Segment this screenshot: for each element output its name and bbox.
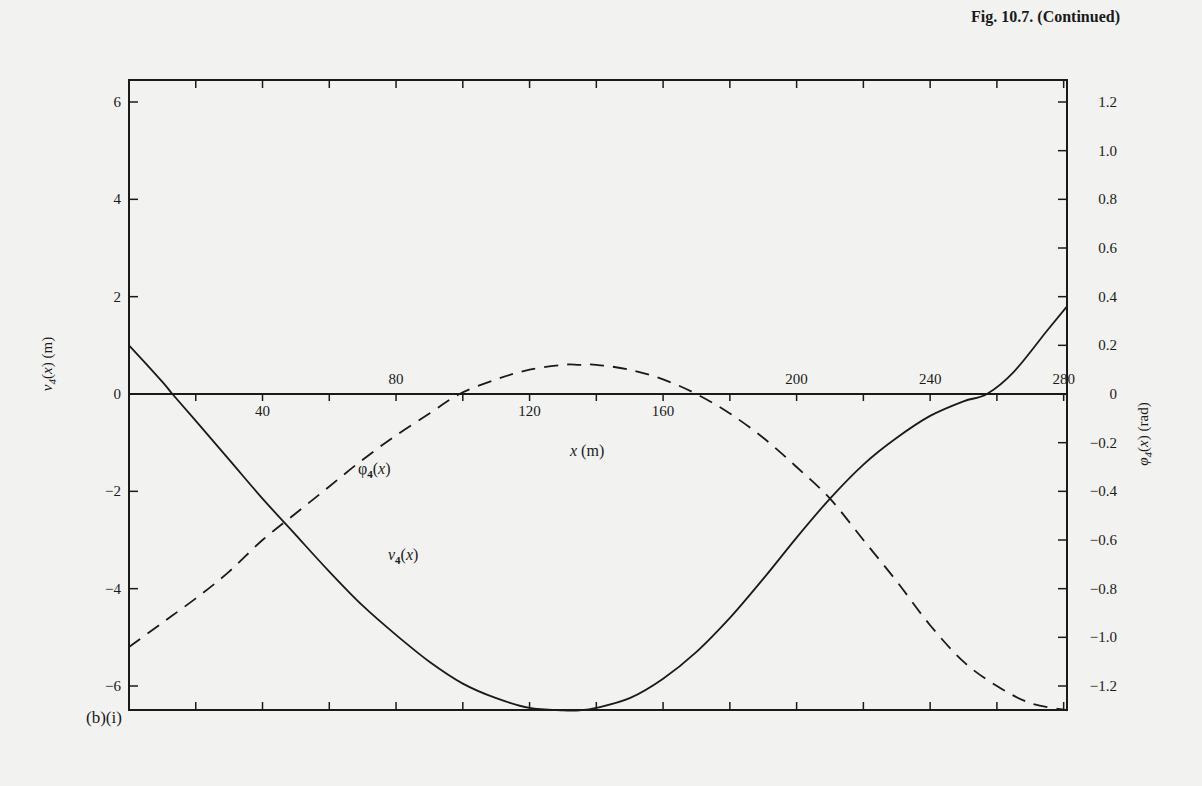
y2-tick-label: −1.0 xyxy=(1090,629,1117,645)
y2-tick-label: −0.8 xyxy=(1090,581,1117,597)
y2-tick-label: 1.2 xyxy=(1098,94,1117,110)
x-tick-label: 200 xyxy=(785,371,808,387)
y-tick-label: 2 xyxy=(114,289,122,305)
y2-tick-label: 0.2 xyxy=(1098,337,1117,353)
chart-labels: φ4(x)v4(x)x (m) xyxy=(358,442,604,566)
y2-tick-label: −0.2 xyxy=(1090,435,1117,451)
x-tick-label: 240 xyxy=(919,371,942,387)
chart: 4080120160200240280 6420−2−4−6v4(x) (m) … xyxy=(0,0,1202,786)
y-tick-label: −4 xyxy=(105,581,121,597)
y2-axis-title: φ4(x) (rad) xyxy=(1135,402,1154,465)
y-axis-left: 6420−2−4−6v4(x) (m) xyxy=(39,94,138,694)
y-tick-label: −2 xyxy=(105,483,121,499)
plot-frame xyxy=(129,80,1067,710)
y2-tick-label: −0.6 xyxy=(1090,532,1118,548)
y2-tick-label: 0.4 xyxy=(1098,289,1117,305)
y2-tick-label: 1.0 xyxy=(1098,143,1117,159)
plot-border xyxy=(129,80,1067,710)
y2-tick-label: 0.8 xyxy=(1098,191,1117,207)
x-tick-label: 160 xyxy=(652,403,675,419)
v4-curve-label: v4(x) xyxy=(388,546,418,566)
y-axis-title: v4(x) (m) xyxy=(39,337,58,391)
y-axis-right: 1.21.00.80.60.40.20−0.2−0.4−0.6−0.8−1.0−… xyxy=(1058,94,1154,694)
x-tick-label: 40 xyxy=(255,403,270,419)
x-tick-label: 120 xyxy=(518,403,541,419)
x-tick-label: 80 xyxy=(389,371,404,387)
x-tick-label: 280 xyxy=(1052,371,1075,387)
y-tick-label: 0 xyxy=(114,386,122,402)
x-axis: 4080120160200240280 xyxy=(129,80,1075,710)
series-group xyxy=(129,306,1067,710)
phi4-curve-label: φ4(x) xyxy=(358,460,391,480)
y2-tick-label: 0.6 xyxy=(1098,240,1117,256)
y-tick-label: 4 xyxy=(114,191,122,207)
y2-tick-label: −1.2 xyxy=(1090,678,1117,694)
y-tick-label: 6 xyxy=(114,94,122,110)
y2-tick-label: −0.4 xyxy=(1090,483,1118,499)
y2-tick-label: 0 xyxy=(1110,386,1118,402)
x-axis-title: x (m) xyxy=(569,442,604,460)
y-tick-label: −6 xyxy=(105,678,121,694)
v4-curve xyxy=(129,306,1067,710)
